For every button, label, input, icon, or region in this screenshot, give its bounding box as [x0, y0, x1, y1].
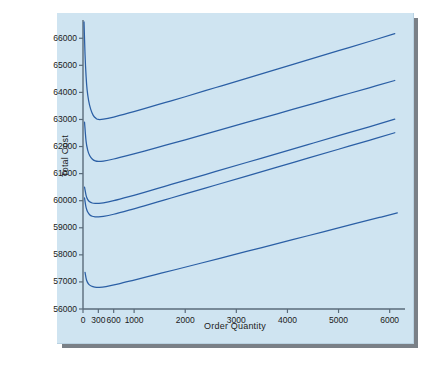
y-tick-label: 64000: [27, 87, 77, 97]
chart-screenshot: 5600057000580005900060000610006200063000…: [0, 0, 430, 367]
cost-curve-curve-5: [85, 213, 397, 287]
y-tick-label: 65000: [27, 60, 77, 70]
curves-group: [84, 22, 397, 287]
x-axis-title: Order Quantity: [57, 321, 413, 331]
y-tick-label: 57000: [27, 276, 77, 286]
axes-group: [79, 20, 405, 313]
y-tick-label: 58000: [27, 249, 77, 259]
cost-curve-curve-3: [85, 119, 395, 203]
y-tick-label: 60000: [27, 195, 77, 205]
cost-curve-curve-1: [84, 22, 395, 120]
cost-curve-curve-2: [85, 80, 395, 161]
plot-area: 5600057000580005900060000610006200063000…: [57, 13, 413, 343]
chart-panel: 5600057000580005900060000610006200063000…: [57, 13, 414, 344]
y-axis-title: Total Cost: [60, 116, 70, 196]
cost-curve-curve-4: [85, 133, 395, 217]
chart-svg: [57, 13, 413, 343]
y-tick-label: 56000: [27, 304, 77, 314]
y-tick-label: 59000: [27, 222, 77, 232]
y-tick-label: 66000: [27, 33, 77, 43]
